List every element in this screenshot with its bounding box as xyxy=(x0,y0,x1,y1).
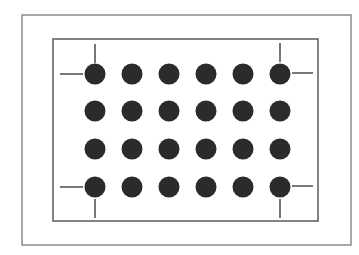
grid-dot xyxy=(85,139,106,160)
outer-frame xyxy=(22,15,351,245)
grid-dot xyxy=(196,177,217,198)
grid-dot xyxy=(233,139,254,160)
grid-dot xyxy=(122,101,143,122)
grid-dot xyxy=(270,101,291,122)
grid-dot xyxy=(122,177,143,198)
grid-dot xyxy=(159,101,180,122)
grid-dot xyxy=(122,139,143,160)
grid-dot xyxy=(159,64,180,85)
grid-dot xyxy=(85,64,106,85)
grid-dot xyxy=(196,64,217,85)
grid-dot xyxy=(159,177,180,198)
grid-dot xyxy=(85,101,106,122)
grid-dot xyxy=(233,64,254,85)
dot-grid xyxy=(85,64,291,198)
grid-dot xyxy=(270,139,291,160)
grid-dot xyxy=(233,101,254,122)
grid-dot xyxy=(159,139,180,160)
grid-dot xyxy=(233,177,254,198)
grid-dot xyxy=(270,64,291,85)
grid-dot xyxy=(196,101,217,122)
dot-grid-diagram xyxy=(0,0,359,255)
grid-dot xyxy=(196,139,217,160)
grid-dot xyxy=(270,177,291,198)
grid-dot xyxy=(122,64,143,85)
grid-dot xyxy=(85,177,106,198)
